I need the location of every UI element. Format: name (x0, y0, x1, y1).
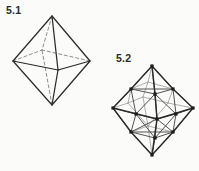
vertex-dot-bottom (150, 153, 153, 156)
figure-5-1-hidden-edges (13, 16, 90, 105)
polyhedra-drawing-canvas (0, 0, 199, 171)
vertex-dot-mid-top-left (129, 87, 132, 90)
vertex-dot-mid-top-front (153, 92, 156, 95)
vertex-dot-left (111, 106, 114, 109)
vertex-dot-top (150, 64, 153, 67)
figure-5-2-label: 5.2 (116, 52, 131, 64)
figure-5-2-subdivided-octahedron (111, 64, 194, 156)
edge-mleftfront-mbotleft (131, 114, 136, 132)
vertex-dot-mid-bottom-front (153, 136, 156, 139)
rear-edge-back-mleftback (128, 97, 143, 103)
figure-sheet: 5.1 5.2 (0, 0, 199, 171)
vertex-dot-front (155, 117, 158, 120)
vertex-dot-mid-bottom-left (129, 130, 132, 133)
edge-top-front (52, 16, 58, 70)
figure-5-1-octahedron (13, 16, 90, 105)
vertex-dot-mid-bottom-right (171, 130, 174, 133)
edge-mtopright-mtopfront (155, 89, 173, 94)
ridge-mtopfront-front (155, 94, 157, 119)
vertex-dot-right (191, 106, 194, 109)
edge-mtopright-mrightfront (173, 89, 176, 114)
ridge-top-mtopfront (152, 66, 155, 94)
rear-edge-mrightback-mbotback (148, 103, 168, 126)
outline-lowerleft-bottom (131, 132, 152, 155)
vertex-dot-mid-top-right (171, 87, 174, 90)
outline-upperright-top (152, 66, 173, 89)
figure-5-2-silhouette-edges (113, 66, 193, 155)
vertex-dot-mid-right-front (174, 112, 177, 115)
hidden-edge-bottom-back (42, 50, 52, 105)
figure-5-1-solid-edges (13, 16, 90, 105)
rear-edge-mrightback-mtopright (168, 89, 173, 103)
figure-5-1-label: 5.1 (6, 4, 21, 16)
edge-right-front (58, 61, 90, 70)
rear-edge-mtopback-back (143, 82, 148, 97)
vertex-dot-mid-left-front (134, 112, 137, 115)
figure-5-1-silhouette (13, 16, 90, 105)
outline-right-upperright (173, 89, 193, 108)
edge-mtopleft-mtopfront (131, 89, 155, 94)
